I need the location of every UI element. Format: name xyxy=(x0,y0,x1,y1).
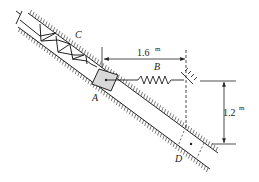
spring-c xyxy=(20,20,97,67)
label-a: A xyxy=(91,92,99,103)
horizontal-dimension-unit: m xyxy=(155,45,161,53)
spring-b xyxy=(106,76,184,84)
horizontal-dimension-value: 1.6 xyxy=(137,47,150,58)
vertical-dimension-unit: m xyxy=(239,104,245,112)
spring-anchor-wall xyxy=(181,68,197,84)
tube-end-cap xyxy=(16,11,22,24)
label-c: C xyxy=(75,29,82,40)
label-b: B xyxy=(154,61,160,72)
vertical-dimension-value: 1.2 xyxy=(223,107,236,118)
tube-lower-wall xyxy=(18,27,210,169)
lower-wall-hatching xyxy=(19,28,209,172)
diagram-canvas: 1.6 m 1.2 m C B A D xyxy=(0,0,259,182)
label-d: D xyxy=(174,153,183,164)
tube-upper-wall xyxy=(28,13,218,153)
